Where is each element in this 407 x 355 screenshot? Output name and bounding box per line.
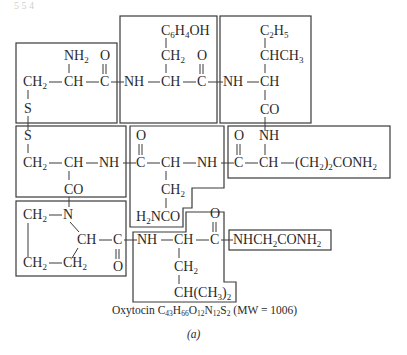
svg-text:H2NCO: H2NCO <box>136 209 180 226</box>
svg-text:O: O <box>234 128 244 143</box>
svg-text:C: C <box>210 232 219 247</box>
svg-text:CH2: CH2 <box>23 155 47 172</box>
svg-text:NH: NH <box>124 74 144 89</box>
svg-text:O: O <box>113 259 123 274</box>
svg-text:C2H5: C2H5 <box>260 23 289 40</box>
svg-text:C: C <box>197 74 206 89</box>
residue-box-gln4 <box>228 126 390 178</box>
svg-text:NHCH2CONH2: NHCH2CONH2 <box>233 232 321 249</box>
svg-text:O: O <box>210 206 220 221</box>
svg-text:NH: NH <box>259 128 279 143</box>
svg-text:NH: NH <box>137 232 157 247</box>
figure-caption: Oxytocin C43H66O12N12S2 (MW = 1006) <box>112 304 297 318</box>
figure-label: (a) <box>187 328 201 341</box>
residue-ile3: NH CH CHCH3 C2H5 CO <box>223 23 304 131</box>
svg-text:NH: NH <box>99 155 119 170</box>
svg-text:O: O <box>136 128 146 143</box>
svg-text:(CH2)2CONH2: (CH2)2CONH2 <box>295 155 377 172</box>
svg-text:NH2: NH2 <box>64 48 89 65</box>
svg-text:S: S <box>24 101 32 116</box>
svg-text:C: C <box>100 74 109 89</box>
svg-text:N: N <box>63 207 73 222</box>
svg-text:C6H4OH: C6H4OH <box>161 23 210 40</box>
svg-text:CH2: CH2 <box>63 255 87 272</box>
residue-gly9: NHCH2CONH2 <box>233 232 321 249</box>
svg-text:C: C <box>136 155 145 170</box>
svg-text:CO: CO <box>260 102 279 117</box>
residue-pro7: CH2 N CH CH2 CH2 C O <box>23 207 123 274</box>
svg-text:CH2: CH2 <box>174 259 198 276</box>
svg-text:CH: CH <box>260 74 279 89</box>
svg-text:C: C <box>234 155 243 170</box>
svg-text:CH2: CH2 <box>161 182 185 199</box>
svg-text:CH: CH <box>64 155 83 170</box>
svg-text:NH: NH <box>223 74 243 89</box>
svg-text:O: O <box>197 48 207 63</box>
svg-text:CH2: CH2 <box>23 255 47 272</box>
svg-text:O: O <box>100 48 110 63</box>
svg-text:CH: CH <box>174 232 193 247</box>
residue-cys6: S CH2 CH NH CO <box>23 128 119 207</box>
svg-text:CH2: CH2 <box>23 74 47 91</box>
corner-mark: 5 5 4 <box>14 0 34 11</box>
residue-cys1-top: CH2 CH C NH2 O S <box>23 48 110 130</box>
svg-text:CH(CH3)2: CH(CH3)2 <box>174 285 231 302</box>
svg-text:C: C <box>113 232 122 247</box>
svg-text:CH2: CH2 <box>161 48 185 65</box>
svg-text:S: S <box>24 128 32 143</box>
svg-text:CH: CH <box>77 232 96 247</box>
residue-gln4: C O CH NH (CH2)2CONH2 <box>234 128 377 172</box>
residue-asn5: C O CH NH CH2 H2NCO <box>136 128 217 226</box>
residue-tyr2: NH CH C O CH2 C6H4OH <box>124 23 210 89</box>
svg-text:CHCH3: CHCH3 <box>260 48 304 65</box>
svg-text:CH2: CH2 <box>23 207 47 224</box>
svg-text:CH: CH <box>64 74 83 89</box>
oxytocin-structure-diagram: 5 5 4 CH2 CH C NH2 O S NH CH C <box>0 0 407 355</box>
svg-text:CH: CH <box>259 155 278 170</box>
svg-text:CH: CH <box>161 155 180 170</box>
svg-text:NH: NH <box>197 155 217 170</box>
svg-text:CO: CO <box>64 182 83 197</box>
svg-text:CH: CH <box>161 74 180 89</box>
